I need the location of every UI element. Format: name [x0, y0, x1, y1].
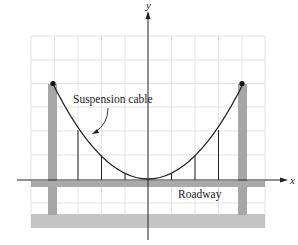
suspension-bridge-diagram: x y Suspension cable Roadway: [0, 0, 298, 245]
y-axis-arrow-icon: [146, 11, 151, 19]
right-anchor-dot: [239, 81, 244, 86]
roadway-label: Roadway: [178, 188, 222, 201]
right-tower: [238, 84, 247, 215]
x-axis-arrow-icon: [280, 178, 288, 183]
x-axis-label: x: [289, 174, 295, 186]
y-axis: [146, 11, 151, 240]
y-axis-label: y: [145, 0, 151, 11]
left-anchor-dot: [50, 81, 55, 86]
left-tower: [48, 84, 57, 215]
cable-label: Suspension cable: [73, 93, 153, 106]
